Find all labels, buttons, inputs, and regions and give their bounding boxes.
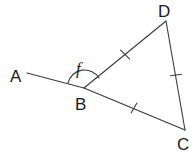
vertex-label-B: B [75, 95, 86, 114]
geometry-canvas: f A B C D [0, 0, 196, 154]
vertex-label-C: C [177, 135, 189, 154]
vertex-label-A: A [10, 67, 22, 86]
vertex-label-D: D [158, 2, 170, 21]
angle-arc-f [68, 70, 99, 83]
geometry-figure: f A B C D [0, 0, 196, 154]
segment-BC [84, 88, 185, 130]
angle-label-f: f [76, 59, 83, 78]
